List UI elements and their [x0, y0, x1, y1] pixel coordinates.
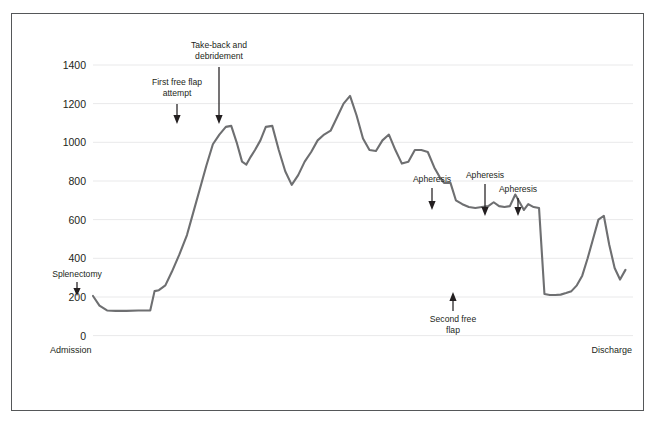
annotation-apheresis-2-label: Apheresis: [466, 170, 504, 180]
annotation-apheresis-3: Apheresis: [499, 184, 537, 216]
annotation-second-free-flap: Second free flap: [430, 292, 477, 335]
annotation-second-free-flap-line1: Second free: [430, 314, 477, 324]
chart-plot-area: 1400 1200 1000 800 600 400 200 0 Admissi…: [0, 0, 657, 425]
annotation-splenectomy-label: Splenectomy: [52, 269, 102, 279]
annotation-first-free-flap-attempt: First free flap attempt: [152, 77, 202, 124]
platelet-count-line: [93, 96, 625, 311]
ytick-label-400: 400: [68, 252, 86, 264]
annotation-first-free-flap-line1: First free flap: [152, 77, 202, 87]
annotation-take-back-arrow-head: [215, 115, 222, 124]
annotation-first-free-flap-line2: attempt: [163, 88, 192, 98]
ytick-label-0: 0: [80, 330, 86, 342]
y-axis-tick-labels: 1400 1200 1000 800 600 400 200 0: [63, 59, 87, 342]
annotation-apheresis-1: Apheresis: [413, 174, 451, 210]
annotation-splenectomy: Splenectomy: [52, 269, 102, 296]
ytick-label-1000: 1000: [63, 136, 87, 148]
x-axis-start-label: Admission: [50, 345, 92, 355]
annotation-first-free-flap-arrow-head: [173, 115, 180, 124]
ytick-label-1200: 1200: [63, 98, 87, 110]
annotation-apheresis-3-label: Apheresis: [499, 184, 537, 194]
annotation-take-back-line2: debridement: [195, 51, 243, 61]
annotation-apheresis-3-arrow-head: [514, 207, 521, 216]
ytick-label-1400: 1400: [63, 59, 87, 71]
annotation-apheresis-2-arrow-head: [481, 207, 488, 216]
annotation-second-free-flap-line2: flap: [446, 325, 460, 335]
annotation-apheresis-1-label: Apheresis: [413, 174, 451, 184]
annotation-take-back-line1: Take-back and: [191, 40, 247, 50]
x-axis-end-label: Discharge: [591, 345, 632, 355]
annotation-apheresis-1-arrow-head: [428, 201, 435, 210]
line-chart-svg: 1400 1200 1000 800 600 400 200 0 Admissi…: [0, 0, 657, 425]
ytick-label-600: 600: [68, 214, 86, 226]
ytick-label-800: 800: [68, 175, 86, 187]
